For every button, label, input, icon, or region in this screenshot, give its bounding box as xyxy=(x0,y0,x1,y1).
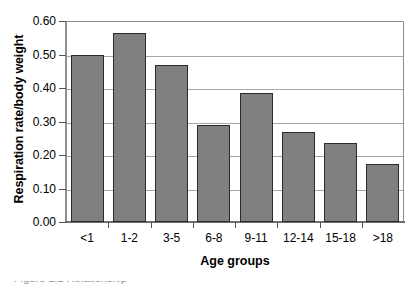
y-axis-tick xyxy=(59,155,66,156)
bar xyxy=(155,65,188,222)
y-axis-tick-label-wrap: 0.50 xyxy=(20,49,56,61)
x-axis-tick-label: <1 xyxy=(66,231,108,245)
bar xyxy=(113,33,146,222)
y-axis-tick xyxy=(59,189,66,190)
x-axis-tick-label: 9-11 xyxy=(235,231,277,245)
y-axis-tick xyxy=(59,122,66,123)
y-axis-tick-label-wrap: 0.40 xyxy=(20,82,56,94)
y-axis-tick-label: 0.10 xyxy=(22,183,56,195)
y-axis-tick-label: 0.40 xyxy=(22,82,56,94)
x-axis-tick xyxy=(277,222,278,228)
y-axis-tick-label-wrap: 0.20 xyxy=(20,149,56,161)
x-axis-tick xyxy=(108,222,109,228)
bar xyxy=(324,143,357,222)
y-axis-tick-label-wrap: 0.00 xyxy=(20,216,56,228)
y-axis-tick-label-wrap: 0.30 xyxy=(20,116,56,128)
bar xyxy=(240,93,273,222)
x-axis-tick xyxy=(193,222,194,228)
x-axis-tick-label: 3-5 xyxy=(151,231,193,245)
y-axis-tick-label: 0.30 xyxy=(22,116,56,128)
y-axis-tick-label-wrap: 0.10 xyxy=(20,183,56,195)
figure-caption-text: Figure 1.1 Relationship xyxy=(14,281,127,285)
x-axis-tick-label: 12-14 xyxy=(277,231,319,245)
y-axis-tick-label-wrap: 0.60 xyxy=(20,15,56,27)
x-axis-tick-label: 15-18 xyxy=(320,231,362,245)
x-axis-tick xyxy=(320,222,321,228)
figure-caption-clipped: Figure 1.1 Relationship xyxy=(14,281,274,292)
bar xyxy=(282,132,315,222)
x-axis-tick-label: 1-2 xyxy=(108,231,150,245)
x-axis-tick-label: >18 xyxy=(362,231,404,245)
y-axis-tick-label: 0.00 xyxy=(22,216,56,228)
y-axis-tick xyxy=(59,222,66,223)
x-axis-tick xyxy=(151,222,152,228)
bar xyxy=(71,55,104,223)
bar xyxy=(197,125,230,222)
bar-chart-figure: Respiration rate/body weight 0.600.500.4… xyxy=(0,0,419,292)
y-axis-tick-label: 0.50 xyxy=(22,49,56,61)
x-axis-tick xyxy=(235,222,236,228)
y-axis-tick xyxy=(59,88,66,89)
x-axis-tick xyxy=(362,222,363,228)
bar xyxy=(366,164,399,222)
y-axis-tick-label: 0.20 xyxy=(22,149,56,161)
y-axis-tick xyxy=(59,21,66,22)
y-axis-tick-label: 0.60 xyxy=(22,15,56,27)
x-axis-title: Age groups xyxy=(66,254,404,268)
x-axis-tick-label: 6-8 xyxy=(193,231,235,245)
y-axis-tick xyxy=(59,55,66,56)
